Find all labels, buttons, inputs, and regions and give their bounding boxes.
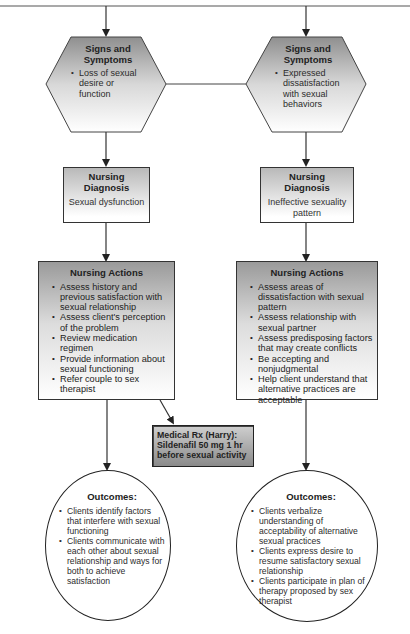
action-item: Be accepting and nonjudgmental	[258, 354, 373, 375]
outcome-item: Clients express desire to resume satisfa…	[259, 546, 372, 576]
nursing-diagnosis-left: Nursing Diagnosis Sexual dysfunction	[63, 167, 150, 223]
signs-title-right: Signs and Symptoms	[274, 44, 342, 65]
outcome-item: Clients identify factors that interfere …	[67, 506, 166, 536]
medical-rx-box: Medical Rx (Harry): Sildenafil 50 mg 1 h…	[152, 425, 254, 467]
diagnosis-title-left: Nursing Diagnosis	[77, 172, 137, 193]
rx-line-2: Sildenafil 50 mg 1 hr	[157, 440, 249, 450]
diagnosis-text-right: Ineffective sexuality pattern	[267, 197, 347, 218]
signs-symptoms-left: Signs and Symptoms Loss of sexual desire…	[46, 37, 166, 133]
rx-line-3: before sexual activity	[157, 450, 249, 460]
outcomes-oval-left: Outcomes: Clients identify factors that …	[45, 470, 171, 621]
action-item: Assess predisposing factors that may cre…	[258, 333, 373, 354]
nursing-actions-right: Nursing Actions Assess areas of dissatis…	[236, 261, 378, 400]
action-item: Help client understand that alternative …	[258, 374, 373, 405]
actions-list-left: Assess history and previous satisfaction…	[51, 282, 170, 395]
outcome-item: Clients communicate with each other abou…	[67, 536, 166, 586]
action-item: Assess relationship with sexual partner	[258, 312, 373, 333]
action-item: Assess history and previous satisfaction…	[60, 282, 170, 313]
outcomes-list-right: Clients verbalize understanding of accep…	[250, 506, 372, 607]
nursing-actions-left: Nursing Actions Assess history and previ…	[38, 261, 175, 400]
outcome-item: Clients participate in plan of therapy p…	[259, 576, 372, 606]
signs-symptoms-right: Signs and Symptoms Expressed dissatisfac…	[246, 37, 366, 133]
actions-list-right: Assess areas of dissatisfaction with sex…	[249, 282, 373, 406]
outcomes-list-left: Clients identify factors that interfere …	[58, 506, 166, 587]
diagnosis-title-right: Nursing Diagnosis	[277, 172, 337, 193]
action-item: Review medication regimen	[60, 333, 170, 354]
signs-item: Expressed dissatisfaction with sexual be…	[283, 68, 342, 109]
outcomes-title-right: Outcomes:	[250, 492, 372, 503]
signs-list-right: Expressed dissatisfaction with sexual be…	[274, 68, 342, 109]
action-item: Provide information about sexual functio…	[60, 354, 170, 375]
actions-title-right: Nursing Actions	[241, 268, 373, 279]
rx-line-1: Medical Rx (Harry):	[157, 430, 249, 440]
signs-item: Loss of sexual desire or function	[79, 68, 146, 99]
outcomes-oval-right: Outcomes: Clients verbalize understandin…	[236, 470, 378, 622]
action-item: Assess areas of dissatisfaction with sex…	[258, 282, 373, 313]
diagnosis-text-left: Sexual dysfunction	[64, 197, 149, 208]
signs-list-left: Loss of sexual desire or function	[70, 68, 146, 99]
outcomes-title-left: Outcomes:	[58, 492, 166, 503]
actions-title-left: Nursing Actions	[43, 268, 170, 279]
action-item: Refer couple to sex therapist	[60, 374, 170, 395]
signs-title-left: Signs and Symptoms	[70, 44, 146, 65]
action-item: Assess client's perception of the proble…	[60, 312, 170, 333]
outcome-item: Clients verbalize understanding of accep…	[259, 506, 372, 546]
nursing-diagnosis-right: Nursing Diagnosis Ineffective sexuality …	[260, 167, 354, 223]
